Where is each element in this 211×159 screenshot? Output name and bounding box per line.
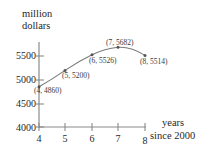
data-point-label-6: (6, 5526) [89, 56, 117, 65]
data-point-label-4: (4, 4860) [34, 86, 62, 95]
data-point-label-5: (5, 5200) [62, 71, 90, 80]
plot-area [0, 0, 211, 159]
chart-figure: million dollars years since 2000 5500 50… [0, 0, 211, 159]
series-line [39, 47, 145, 86]
data-series-group [38, 46, 147, 88]
data-point-label-7: (7, 5682) [106, 38, 134, 47]
data-point-label-8: (8, 5514) [140, 57, 168, 66]
